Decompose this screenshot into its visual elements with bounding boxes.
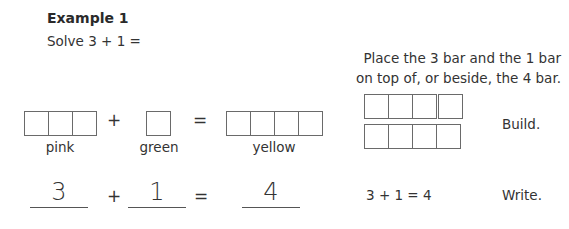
bar-cell xyxy=(250,111,275,136)
bar-cell xyxy=(412,124,437,149)
answer-addend-2: 1 xyxy=(128,178,186,206)
bar-cell xyxy=(226,111,251,136)
plus-sign: + xyxy=(107,110,121,130)
example-prompt: Solve 3 + 1 = xyxy=(47,33,141,49)
example-title: Example 1 xyxy=(47,10,129,26)
equals-sign-write: = xyxy=(194,186,208,206)
bar-cell xyxy=(412,94,437,119)
instruction-text: Place the 3 bar and the 1 bar on top of,… xyxy=(301,48,561,88)
bar-cell xyxy=(388,94,413,119)
bar-cell xyxy=(72,111,97,136)
green-1-bar xyxy=(146,111,171,136)
bar-cell xyxy=(364,124,389,149)
instruction-line-1: Place the 3 bar and the 1 bar xyxy=(301,48,561,68)
write-step-label: Write. xyxy=(502,187,542,203)
bar-cell xyxy=(274,111,299,136)
answer-blank-2 xyxy=(128,207,186,208)
green-label: green xyxy=(133,139,185,155)
answer-addend-1: 3 xyxy=(30,178,88,206)
bar-cell xyxy=(24,111,49,136)
bar-cell xyxy=(146,111,171,136)
answer-blank-1 xyxy=(30,207,88,208)
stacked-3-bar xyxy=(364,94,437,119)
bar-cell xyxy=(438,94,463,119)
pink-3-bar xyxy=(24,111,97,136)
stacked-4-bar xyxy=(364,124,461,149)
plus-sign-write: + xyxy=(107,186,121,206)
instruction-line-2: on top of, or beside, the 4 bar. xyxy=(301,68,561,88)
yellow-4-bar xyxy=(226,111,323,136)
yellow-label: yellow xyxy=(226,139,322,155)
bar-cell xyxy=(436,124,461,149)
bar-cell xyxy=(298,111,323,136)
bar-cell xyxy=(48,111,73,136)
build-step-label: Build. xyxy=(502,116,540,132)
stacked-1-bar xyxy=(438,94,463,119)
answer-blank-3 xyxy=(242,207,300,208)
number-sentence: 3 + 1 = 4 xyxy=(366,187,432,203)
answer-sum: 4 xyxy=(242,178,300,206)
bar-cell xyxy=(388,124,413,149)
equals-sign: = xyxy=(193,110,207,130)
bar-cell xyxy=(364,94,389,119)
pink-label: pink xyxy=(24,139,96,155)
